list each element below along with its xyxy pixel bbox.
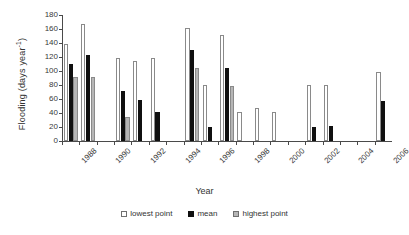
bar xyxy=(203,85,207,141)
legend-item: lowest point xyxy=(121,209,172,218)
x-tick-mark xyxy=(270,141,271,145)
plot-area: 180160140120100806040200 198819901992199… xyxy=(62,15,392,141)
bar-group xyxy=(99,15,113,141)
legend-swatch xyxy=(188,211,194,217)
bar xyxy=(125,117,129,142)
x-tick-mark xyxy=(357,141,358,145)
y-tick-mark xyxy=(59,85,62,86)
bar xyxy=(151,58,155,141)
bar xyxy=(220,35,224,141)
bar-group xyxy=(64,15,78,141)
x-tick-mark xyxy=(253,141,254,145)
y-axis-title-exponent: -1 xyxy=(15,41,22,47)
x-axis-line xyxy=(62,141,392,142)
chart-legend: lowest pointmeanhighest point xyxy=(0,209,409,218)
bar-group xyxy=(81,15,95,141)
x-tick-label: 1996 xyxy=(219,147,237,165)
bar-group xyxy=(290,15,304,141)
legend-label: mean xyxy=(197,209,217,218)
legend-swatch xyxy=(233,211,239,217)
y-tick-mark xyxy=(59,113,62,114)
legend-swatch xyxy=(121,211,127,217)
bar-group xyxy=(220,15,234,141)
bar-group xyxy=(272,15,286,141)
bar xyxy=(133,61,137,142)
x-tick-label: 1988 xyxy=(80,147,98,165)
x-tick-mark xyxy=(218,141,219,145)
x-tick-label: 1992 xyxy=(149,147,167,165)
bar xyxy=(116,58,120,141)
x-tick-mark xyxy=(62,141,63,145)
x-tick-mark xyxy=(288,141,289,145)
bar xyxy=(230,86,234,141)
bar xyxy=(237,112,241,141)
y-tick-mark xyxy=(59,71,62,72)
legend-label: lowest point xyxy=(130,209,172,218)
y-axis-title-text: Flooding (days year xyxy=(17,47,27,130)
bar-group xyxy=(307,15,321,141)
x-tick-label: 2002 xyxy=(323,147,341,165)
bar xyxy=(324,85,328,141)
x-tick-label: 1990 xyxy=(114,147,132,165)
legend-item: mean xyxy=(188,209,217,218)
y-axis-title-close: ) xyxy=(17,38,27,41)
x-tick-mark xyxy=(114,141,115,145)
x-tick-mark xyxy=(184,141,185,145)
bar xyxy=(272,112,276,141)
bar-group xyxy=(168,15,182,141)
bar xyxy=(376,72,380,141)
x-tick-label: 2000 xyxy=(288,147,306,165)
bar-group xyxy=(324,15,338,141)
x-tick-mark xyxy=(131,141,132,145)
x-tick-label: 1998 xyxy=(253,147,271,165)
x-tick-mark xyxy=(149,141,150,145)
bar xyxy=(195,68,199,142)
y-tick-mark xyxy=(59,29,62,30)
x-tick-mark xyxy=(305,141,306,145)
y-tick-mark xyxy=(59,57,62,58)
y-tick-label: 140 xyxy=(45,39,58,47)
y-tick-label: 180 xyxy=(45,11,58,19)
y-tick-label: 20 xyxy=(49,123,58,131)
bar xyxy=(81,24,85,141)
x-tick-label: 2004 xyxy=(358,147,376,165)
bar xyxy=(69,64,73,141)
bar xyxy=(208,127,212,141)
x-tick-mark xyxy=(340,141,341,145)
y-tick-label: 80 xyxy=(49,81,58,89)
y-tick-label: 160 xyxy=(45,25,58,33)
bar xyxy=(73,77,77,141)
bar-group xyxy=(133,15,147,141)
legend-item: highest point xyxy=(233,209,287,218)
y-tick-label: 100 xyxy=(45,67,58,75)
bar-group xyxy=(237,15,251,141)
y-tick-mark xyxy=(59,43,62,44)
x-tick-mark xyxy=(236,141,237,145)
bar xyxy=(312,127,316,141)
x-tick-label: 1994 xyxy=(184,147,202,165)
bar xyxy=(138,100,142,141)
y-tick-mark xyxy=(59,127,62,128)
bar-group xyxy=(203,15,217,141)
bar xyxy=(86,55,90,141)
bar-group xyxy=(116,15,130,141)
flooding-bar-chart: Flooding (days year-1) 18016014012010080… xyxy=(0,0,409,235)
bar xyxy=(329,126,333,141)
bar-group xyxy=(376,15,390,141)
bar xyxy=(185,28,189,141)
bar xyxy=(381,101,385,141)
x-tick-mark xyxy=(79,141,80,145)
x-axis-title: Year xyxy=(0,186,409,196)
bar xyxy=(307,85,311,141)
bar xyxy=(255,108,259,141)
y-tick-label: 40 xyxy=(49,109,58,117)
y-axis-title: Flooding (days year-1) xyxy=(15,9,27,159)
x-tick-label: 2006 xyxy=(392,147,409,165)
x-tick-mark xyxy=(166,141,167,145)
x-tick-mark xyxy=(97,141,98,145)
y-tick-label: 60 xyxy=(49,95,58,103)
bar-group xyxy=(185,15,199,141)
x-tick-mark xyxy=(201,141,202,145)
bar-group xyxy=(151,15,165,141)
y-tick-mark xyxy=(59,15,62,16)
